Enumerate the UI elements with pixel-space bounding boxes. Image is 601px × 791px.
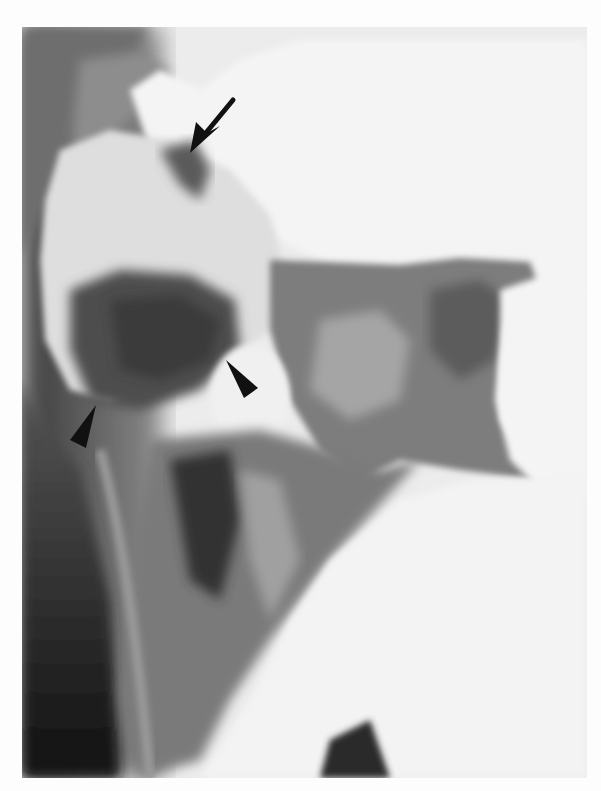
- radiograph-frame: [22, 27, 587, 778]
- radiograph-image: [22, 27, 587, 778]
